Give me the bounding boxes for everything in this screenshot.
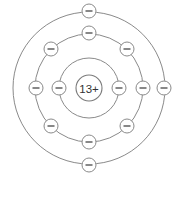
electron-icon xyxy=(82,135,96,149)
electron-icon xyxy=(120,42,134,56)
electron-icon xyxy=(82,26,96,40)
electron-icon xyxy=(120,119,134,133)
electron-icon xyxy=(82,4,96,18)
electron-icon xyxy=(82,158,96,172)
electron-icon xyxy=(136,81,150,95)
electron-icon xyxy=(44,42,58,56)
nucleus-charge-label: 13+ xyxy=(79,83,99,95)
nucleus: 13+ xyxy=(76,75,102,101)
electron-icon xyxy=(44,119,58,133)
electron-icon xyxy=(157,81,171,95)
electron-icon xyxy=(52,81,66,95)
electron-icon xyxy=(29,81,43,95)
electron-icon xyxy=(112,81,126,95)
atom-diagram: 13+ xyxy=(0,0,188,197)
